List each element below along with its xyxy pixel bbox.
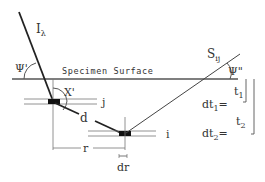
incident-beam-label: Iλ bbox=[36, 22, 46, 38]
incident-angle-label: Ψ' bbox=[15, 62, 28, 75]
scattered-beam-label: Sij bbox=[207, 47, 220, 63]
dt1-label: dt1= bbox=[202, 98, 228, 113]
dt2-label: dt2= bbox=[202, 127, 228, 142]
path-d-label: d bbox=[80, 111, 88, 125]
scattering-geometry-diagram: Specimen Surface Iλ Ψ' X' j d i Sij Ψ" r… bbox=[0, 0, 265, 182]
r-dimension-label: r bbox=[83, 142, 89, 155]
t2-label: t2 bbox=[236, 115, 246, 130]
t1-label: t1 bbox=[234, 85, 244, 100]
specimen-surface-label: Specimen Surface bbox=[62, 66, 153, 76]
element-j-block bbox=[48, 99, 60, 104]
layer-i-label: i bbox=[166, 128, 170, 141]
layer-j-label: j bbox=[100, 96, 105, 109]
dr-dimension-label: dr bbox=[117, 161, 130, 174]
takeoff-angle-label: Ψ" bbox=[228, 65, 243, 78]
path-d-line-upper bbox=[55, 103, 79, 114]
internal-angle-label: X' bbox=[64, 86, 75, 99]
